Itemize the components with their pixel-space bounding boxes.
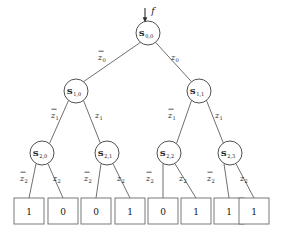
svg-text:z2: z2: [19, 174, 28, 184]
edge-label-s21-leaf2: z2: [83, 172, 92, 184]
leaf-value-2: 0: [93, 207, 99, 217]
leaf-value-4: 0: [160, 207, 166, 217]
edges-level-1: [50, 101, 224, 144]
edges-level-2: [29, 164, 254, 198]
node-circles: [30, 21, 242, 165]
edge-s23-leaf6: [224, 164, 229, 198]
leaf-value-0: 1: [26, 207, 32, 217]
edge-s20-leaf0: [29, 164, 36, 198]
edge-label-s20-leaf0: z2: [19, 172, 28, 184]
leaf-value-1: 0: [60, 207, 66, 217]
svg-text:z2: z2: [206, 174, 215, 184]
input-arrow-group: f: [143, 6, 157, 23]
svg-text:z1: z1: [214, 111, 223, 121]
svg-text:z2: z2: [83, 174, 92, 184]
svg-text:z2: z2: [145, 174, 154, 184]
edge-s11-s23: [207, 101, 224, 144]
edge-label-s11-s23: z1: [214, 111, 223, 121]
leaf-value-5: 1: [193, 207, 199, 217]
edge-label-s10-s21: z1: [94, 111, 103, 121]
input-function-label: f: [150, 6, 156, 16]
edge-label-s22-leaf5: z2: [178, 174, 187, 184]
edge-label-s22-leaf4: z2: [145, 172, 154, 184]
svg-text:z2: z2: [52, 174, 61, 184]
edge-s00-s11: [156, 42, 192, 81]
edge-s11-s22: [177, 101, 192, 144]
edge-label-s23-leaf7: z2: [239, 174, 248, 184]
leaf-value-3: 1: [127, 207, 133, 217]
edge-label-s21-leaf3: z2: [116, 174, 125, 184]
svg-text:z2: z2: [239, 174, 248, 184]
edge-label-s23-leaf6: z2: [206, 172, 215, 184]
leaf-value-7: 1: [251, 207, 257, 217]
edge-label-s20-leaf1: z2: [52, 174, 61, 184]
edge-label-s10-s20: z1: [50, 109, 59, 121]
svg-text:z1: z1: [94, 111, 103, 121]
edge-s10-s21: [84, 101, 101, 144]
svg-text:z2: z2: [178, 174, 187, 184]
decision-tree-diagram: f: [0, 0, 283, 242]
edge-label-s11-s22: z1: [167, 109, 176, 121]
edge-s00-s10: [84, 42, 141, 81]
svg-text:z0: z0: [170, 53, 179, 63]
svg-text:z1: z1: [50, 111, 59, 121]
svg-text:z1: z1: [167, 111, 176, 121]
leaf-value-6: 1: [226, 207, 232, 217]
tree-canvas: f: [0, 0, 283, 242]
edge-s10-s20: [50, 101, 69, 144]
edge-label-s00-s11: z0: [170, 53, 179, 63]
svg-text:z2: z2: [116, 174, 125, 184]
edge-s21-leaf2: [96, 164, 101, 198]
edge-label-s00-s10: z0: [97, 51, 106, 63]
svg-text:z0: z0: [97, 53, 106, 63]
